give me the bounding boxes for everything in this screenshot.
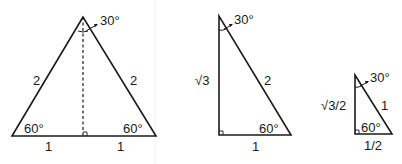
right-side-label: 2 [130, 74, 137, 87]
left-angle-label: 60° [24, 122, 44, 135]
small-bottom-angle-label: 60° [361, 121, 381, 134]
right-angle-label: 60° [123, 122, 143, 135]
small-top-angle-label: 30° [370, 71, 390, 84]
base-label: 1 [252, 140, 259, 153]
apex-angle-label: 30° [100, 14, 120, 27]
small-base-label: 1/2 [364, 139, 382, 152]
hypotenuse-label: 2 [264, 74, 271, 87]
vertical-side-label: √3 [195, 74, 209, 87]
top-angle-label: 30° [234, 13, 254, 26]
angle-arc [219, 29, 226, 30]
left-side-label: 2 [33, 74, 40, 87]
right-triangle [219, 16, 291, 135]
small-vertical-side-label: √3/2 [321, 99, 346, 112]
bottom-angle-label: 60° [259, 122, 279, 135]
small-hypotenuse-label: 1 [381, 99, 388, 112]
base-right-label: 1 [117, 140, 124, 153]
base-left-label: 1 [45, 140, 52, 153]
